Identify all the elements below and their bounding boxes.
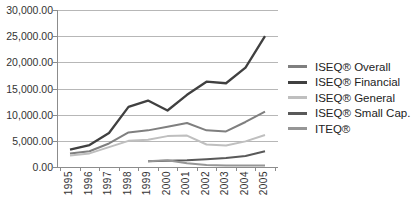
legend-label: ISEQ® Small Cap. bbox=[315, 107, 410, 119]
series-line-iseq--financial bbox=[70, 36, 265, 150]
chart-legend: ISEQ® OverallISEQ® FinancialISEQ® Genera… bbox=[288, 59, 410, 137]
x-tick-label: 1999 bbox=[141, 171, 152, 195]
iseq-index-line-chart: 0.005,000.0010,000.0015,000.0020,000.002… bbox=[0, 0, 412, 205]
legend-item: ISEQ® Financial bbox=[288, 75, 410, 91]
legend-swatch-icon bbox=[288, 96, 307, 99]
legend-swatch-icon bbox=[288, 65, 307, 68]
x-tick-label: 2000 bbox=[161, 171, 172, 195]
y-tick-label: 0.00 bbox=[0, 161, 53, 173]
legend-swatch-icon bbox=[288, 127, 307, 130]
legend-item: ISEQ® Small Cap. bbox=[288, 106, 410, 122]
x-tick-label: 1997 bbox=[102, 171, 113, 195]
legend-label: ITEQ® bbox=[315, 123, 350, 135]
legend-label: ISEQ® Financial bbox=[315, 76, 400, 88]
legend-label: ISEQ® General bbox=[315, 92, 395, 104]
legend-swatch-icon bbox=[288, 112, 307, 115]
x-tick-label: 2002 bbox=[200, 171, 211, 195]
legend-label: ISEQ® Overall bbox=[315, 61, 391, 73]
series-line-iteq- bbox=[148, 160, 265, 165]
x-tick-label: 2001 bbox=[180, 171, 191, 195]
y-tick-label: 20,000.00 bbox=[0, 56, 53, 68]
legend-swatch-icon bbox=[288, 81, 307, 84]
legend-item: ISEQ® General bbox=[288, 90, 410, 106]
y-tick-label: 5,000.00 bbox=[0, 135, 53, 147]
y-tick-label: 25,000.00 bbox=[0, 30, 53, 42]
x-tick-label: 1996 bbox=[83, 171, 94, 195]
x-tick-label: 1995 bbox=[63, 171, 74, 195]
y-tick-label: 30,000.00 bbox=[0, 4, 53, 16]
x-tick-label: 1998 bbox=[122, 171, 133, 195]
legend-item: ITEQ® bbox=[288, 121, 410, 137]
legend-item: ISEQ® Overall bbox=[288, 59, 410, 75]
series-line-iseq--overall bbox=[70, 112, 265, 154]
x-tick-label: 2005 bbox=[258, 171, 269, 195]
y-tick-label: 15,000.00 bbox=[0, 83, 53, 95]
y-tick-label: 10,000.00 bbox=[0, 109, 53, 121]
x-tick-label: 2004 bbox=[239, 171, 250, 195]
x-tick-label: 2003 bbox=[219, 171, 230, 195]
